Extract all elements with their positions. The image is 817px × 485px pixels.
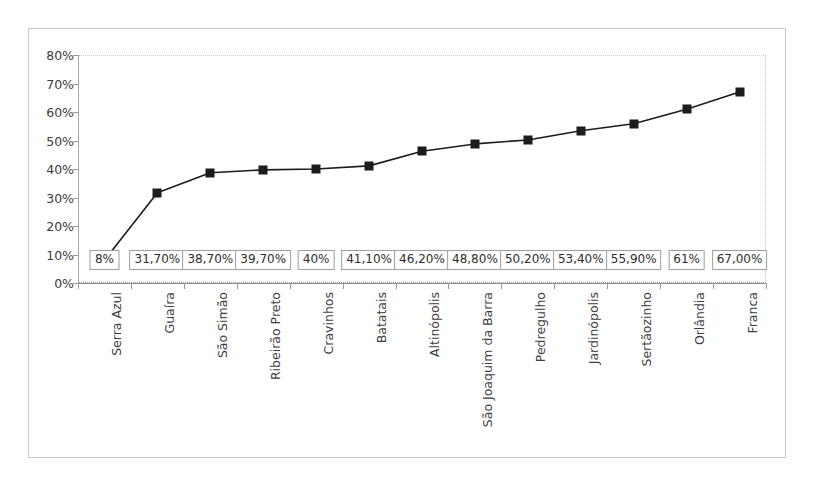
y-tick-label: 30% bbox=[34, 190, 74, 205]
y-tick-mark bbox=[73, 84, 78, 85]
data-point-marker bbox=[259, 165, 268, 174]
x-axis-category-label: Altinópolis bbox=[427, 292, 442, 357]
data-point-marker bbox=[523, 135, 532, 144]
y-tick-mark bbox=[73, 55, 78, 56]
data-point-label: 67,00% bbox=[712, 250, 768, 270]
x-tick-mark bbox=[131, 283, 132, 289]
data-point-marker bbox=[365, 161, 374, 170]
data-point-label: 48,80% bbox=[447, 250, 503, 270]
x-axis-category-label: São Simão bbox=[215, 292, 230, 358]
x-tick-mark bbox=[78, 283, 79, 289]
x-axis-category-label: Franca bbox=[745, 292, 760, 334]
data-point-label: 61% bbox=[668, 250, 705, 270]
data-point-label: 46,20% bbox=[394, 250, 450, 270]
x-axis-category-label: Cravinhos bbox=[321, 292, 336, 354]
y-tick-mark bbox=[73, 112, 78, 113]
y-axis-line bbox=[78, 55, 79, 284]
data-point-label: 41,10% bbox=[341, 250, 397, 270]
x-axis-category-label: Orlândia bbox=[692, 292, 707, 345]
y-tick-mark bbox=[73, 141, 78, 142]
x-axis-category-label: Sertãozinho bbox=[639, 292, 654, 367]
data-point-marker bbox=[682, 105, 691, 114]
y-tick-mark bbox=[73, 198, 78, 199]
line-chart: 0%10%20%30%40%50%60%70%80% 8%31,70%38,70… bbox=[0, 0, 817, 485]
x-axis-line bbox=[78, 283, 767, 284]
y-tick-label: 70% bbox=[34, 76, 74, 91]
x-axis-category-label: Batatais bbox=[374, 292, 389, 343]
data-point-marker bbox=[312, 165, 321, 174]
data-point-marker bbox=[735, 88, 744, 97]
y-tick-label: 10% bbox=[34, 247, 74, 262]
data-point-label: 38,70% bbox=[182, 250, 238, 270]
x-tick-mark bbox=[290, 283, 291, 289]
x-tick-mark bbox=[766, 283, 767, 289]
x-axis-category-label: Ribeirão Preto bbox=[268, 292, 283, 380]
x-axis-category-label: Jardinópolis bbox=[586, 292, 601, 364]
plot-area bbox=[78, 55, 766, 283]
data-point-marker bbox=[153, 188, 162, 197]
x-tick-mark bbox=[184, 283, 185, 289]
x-tick-mark bbox=[607, 283, 608, 289]
data-point-label: 50,20% bbox=[500, 250, 556, 270]
y-tick-mark bbox=[73, 226, 78, 227]
x-tick-mark bbox=[448, 283, 449, 289]
y-tick-mark bbox=[73, 169, 78, 170]
x-tick-mark bbox=[396, 283, 397, 289]
data-point-label: 31,70% bbox=[129, 250, 185, 270]
y-tick-label: 40% bbox=[34, 162, 74, 177]
y-tick-label: 20% bbox=[34, 219, 74, 234]
x-tick-mark bbox=[660, 283, 661, 289]
x-axis-category-label: Serra Azul bbox=[109, 292, 124, 356]
x-axis-category-label: São Joaquim da Barra bbox=[480, 292, 495, 427]
y-tick-label: 50% bbox=[34, 133, 74, 148]
y-tick-label: 0% bbox=[34, 276, 74, 291]
data-point-label: 39,70% bbox=[235, 250, 291, 270]
x-axis-category-label: Guaíra bbox=[162, 292, 177, 334]
x-tick-mark bbox=[501, 283, 502, 289]
data-point-label: 40% bbox=[298, 250, 335, 270]
x-tick-mark bbox=[554, 283, 555, 289]
x-tick-mark bbox=[343, 283, 344, 289]
data-point-label: 53,40% bbox=[553, 250, 609, 270]
data-point-marker bbox=[418, 147, 427, 156]
x-tick-mark bbox=[237, 283, 238, 289]
y-tick-mark bbox=[73, 255, 78, 256]
x-tick-mark bbox=[713, 283, 714, 289]
y-tick-label: 80% bbox=[34, 48, 74, 63]
data-point-marker bbox=[629, 119, 638, 128]
data-point-marker bbox=[576, 126, 585, 135]
y-tick-label: 60% bbox=[34, 105, 74, 120]
data-point-label: 8% bbox=[90, 250, 119, 270]
x-axis-category-label: Pedregulho bbox=[533, 292, 548, 362]
data-point-label: 55,90% bbox=[606, 250, 662, 270]
data-point-marker bbox=[470, 139, 479, 148]
data-point-marker bbox=[206, 168, 215, 177]
